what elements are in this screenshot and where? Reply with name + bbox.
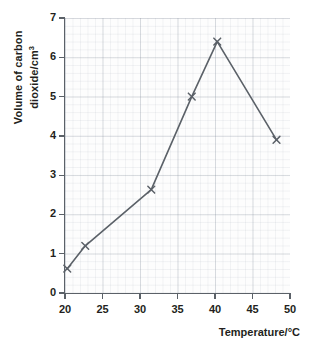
y-axis-tick-label: 5	[40, 91, 56, 102]
chart-figure: Volume of carbon dioxide/cm3 01234567 20…	[0, 0, 312, 348]
x-axis-tick-label: 35	[163, 303, 193, 315]
x-axis-tick	[102, 293, 103, 299]
x-axis-tick-label: 40	[200, 303, 230, 315]
y-axis-tick	[59, 253, 65, 254]
y-axis-title-line2: dioxide/cm3	[25, 30, 42, 124]
x-axis-tick-label: 30	[125, 303, 155, 315]
x-axis-tick	[289, 293, 290, 299]
x-axis-tick-label: 50	[275, 303, 305, 315]
x-axis-tick	[64, 293, 65, 299]
y-axis-tick-label: 6	[40, 51, 56, 62]
y-axis-tick-label: 7	[40, 12, 56, 23]
y-axis-tick	[59, 96, 65, 97]
y-axis-tick	[59, 57, 65, 58]
y-axis-title: Volume of carbon dioxide/cm3	[11, 30, 42, 124]
y-axis-tick	[59, 135, 65, 136]
x-axis-tick	[177, 293, 178, 299]
y-axis-tick-label: 1	[40, 248, 56, 259]
y-axis-tick	[59, 214, 65, 215]
y-axis-tick-label: 3	[40, 169, 56, 180]
x-axis-tick	[214, 293, 215, 299]
x-axis-tick-label: 45	[238, 303, 268, 315]
x-axis-tick-label: 25	[88, 303, 118, 315]
x-axis-tick	[139, 293, 140, 299]
y-axis-tick-label: 0	[40, 287, 56, 298]
x-axis-tick	[252, 293, 253, 299]
x-axis-tick-label: 20	[50, 303, 80, 315]
plot-area	[65, 18, 290, 293]
y-axis-tick	[59, 17, 65, 18]
x-axis-title: Temperature/°C	[0, 326, 300, 338]
y-axis-title-line1: Volume of carbon	[11, 30, 25, 124]
y-axis-tick	[59, 175, 65, 176]
y-axis-title-line2-text: dioxide/cm	[28, 50, 40, 108]
y-axis-title-superscript: 3	[27, 46, 36, 50]
y-axis-tick-label: 2	[40, 208, 56, 219]
y-axis-tick-label: 4	[40, 130, 56, 141]
